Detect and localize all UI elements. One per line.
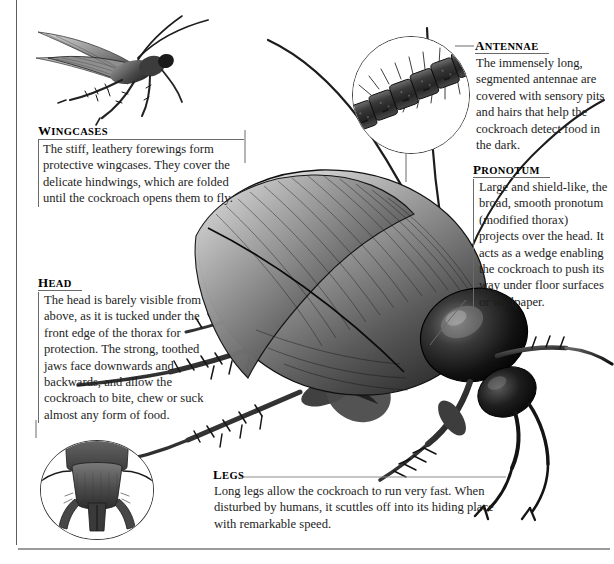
page-bottom-rule: [18, 548, 610, 550]
head-detail-inset: [40, 440, 154, 540]
page-left-border: [16, 0, 17, 545]
callout-antennae-body: The immensely long, segmented antennae a…: [475, 55, 611, 153]
callout-legs-heading: LEGS: [213, 469, 254, 482]
callout-antennae: ANTENNAE The immensely long, segmented a…: [475, 36, 611, 153]
callout-head: HEAD The head is barely visible from abo…: [38, 273, 214, 423]
flying-cockroach-illustration: [22, 14, 232, 129]
callout-wingcases: WINGCASES The stiff, leathery forewings …: [38, 125, 244, 207]
antenna-detail-inset: [352, 36, 470, 154]
callout-wingcases-heading: WINGCASES: [38, 125, 244, 138]
callout-legs-body: Long legs allow the cockroach to run ver…: [213, 483, 503, 532]
callout-legs: LEGS Long legs allow the cockroach to ru…: [213, 465, 503, 532]
callout-wingcases-body: The stiff, leathery forewings form prote…: [38, 139, 244, 207]
head-detail-art: [41, 441, 153, 539]
callout-pronotum-body: Large and shield-like, the broad, smooth…: [473, 179, 611, 310]
callout-head-body: The head is barely visible from above, a…: [38, 292, 214, 423]
callout-head-heading: HEAD: [38, 277, 82, 291]
illustration-page: WINGCASES The stiff, leathery forewings …: [0, 0, 614, 564]
callout-pronotum-heading: PRONOTUM: [473, 164, 550, 178]
antenna-detail-art: [353, 37, 469, 153]
callout-antennae-heading: ANTENNAE: [475, 40, 549, 54]
callout-pronotum: PRONOTUM Large and shield-like, the broa…: [473, 160, 611, 310]
